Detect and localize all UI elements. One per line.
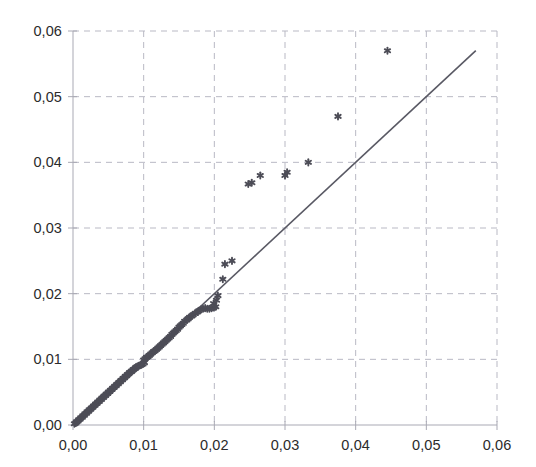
data-point-marker bbox=[249, 180, 254, 186]
y-tick-label: 0,00 bbox=[33, 417, 62, 433]
data-point-marker bbox=[222, 261, 227, 267]
x-tick-label: 0,02 bbox=[200, 437, 229, 453]
data-point-marker bbox=[335, 113, 340, 119]
data-point-marker bbox=[306, 159, 311, 165]
data-point-marker bbox=[220, 276, 225, 282]
data-point-marker bbox=[385, 48, 390, 54]
x-tick-label: 0,03 bbox=[271, 437, 300, 453]
y-tick-label: 0,04 bbox=[33, 154, 62, 170]
data-point-marker bbox=[229, 258, 234, 264]
y-tick-label: 0,02 bbox=[33, 286, 62, 302]
x-tick-label: 0,05 bbox=[412, 437, 441, 453]
data-points bbox=[72, 48, 390, 427]
x-tick-label: 0,00 bbox=[59, 437, 88, 453]
y-tick-label: 0,05 bbox=[33, 89, 62, 105]
y-tick-label: 0,06 bbox=[33, 23, 62, 39]
y-tick-label: 0,03 bbox=[33, 220, 62, 236]
y-tick-label: 0,01 bbox=[33, 351, 62, 367]
scatter-chart: 0,000,010,020,030,040,050,06 0,000,010,0… bbox=[0, 0, 536, 467]
x-tick-label: 0,04 bbox=[341, 437, 370, 453]
data-point-marker bbox=[284, 169, 289, 175]
plot-area bbox=[0, 0, 536, 467]
data-point-marker bbox=[258, 172, 263, 178]
data-point-marker bbox=[215, 293, 220, 299]
x-tick-label: 0,01 bbox=[129, 437, 158, 453]
x-tick-label: 0,06 bbox=[483, 437, 512, 453]
